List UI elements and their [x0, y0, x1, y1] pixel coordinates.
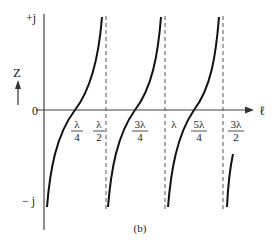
svg-text:4: 4 [74, 131, 80, 143]
svg-text:λ: λ [74, 118, 80, 130]
tick-three-lambda-quarter: 3λ 4 [132, 118, 148, 143]
tick-lambda-half: λ 2 [93, 118, 105, 143]
tick-lambda: λ [171, 118, 177, 130]
svg-text:4: 4 [196, 131, 202, 143]
svg-text:λ: λ [171, 118, 177, 130]
svg-text:3λ: 3λ [135, 118, 147, 130]
svg-text:2: 2 [96, 131, 102, 143]
l-axis-label: ℓ [259, 103, 265, 118]
curve-branch-3 [168, 17, 219, 207]
curve-branch-1 [47, 17, 102, 207]
svg-text:4: 4 [137, 131, 143, 143]
svg-text:3λ: 3λ [231, 118, 243, 130]
impedance-plot: +j − j 0 Z ℓ λ 4 λ 2 3λ 4 λ 5λ 4 3λ 2 (b… [0, 0, 278, 240]
tick-three-lambda-half: 3λ 2 [228, 118, 244, 143]
x-axis-arrow-icon [245, 107, 254, 114]
curve-branch-4 [227, 154, 233, 207]
plus-j-label: +j [26, 11, 36, 25]
svg-text:λ: λ [96, 118, 102, 130]
curve-branch-2 [108, 17, 161, 207]
z-arrow-icon [15, 80, 21, 89]
tick-five-lambda-quarter: 5λ 4 [191, 118, 207, 143]
svg-text:2: 2 [233, 131, 239, 143]
z-axis-label: Z [13, 65, 21, 80]
figure-caption: (b) [134, 222, 147, 235]
zero-label: 0 [32, 104, 38, 118]
tick-lambda-quarter: λ 4 [71, 118, 83, 143]
minus-j-label: − j [22, 194, 35, 208]
svg-text:5λ: 5λ [194, 118, 206, 130]
